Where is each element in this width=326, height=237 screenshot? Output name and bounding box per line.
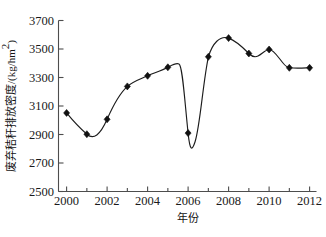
- y-tick-label: 3300: [29, 71, 54, 85]
- x-tick-label: 2002: [95, 194, 120, 208]
- x-axis-title: 年份: [177, 211, 199, 225]
- y-tick-label: 3100: [29, 99, 54, 113]
- x-tick-label: 2012: [297, 194, 322, 208]
- y-tick-label: 2900: [29, 128, 54, 142]
- y-axis-title-cjk: 废弃秸秆排放密度: [4, 84, 18, 172]
- y-axis-title-unit-close: ): [5, 40, 18, 44]
- y-tick-label: 3500: [29, 42, 54, 56]
- y-tick-label: 3700: [29, 14, 54, 28]
- x-tick-label: 2008: [216, 194, 241, 208]
- x-tick-label: 2000: [54, 194, 79, 208]
- line-chart: 2500 2700 2900 3100 3300 3500 3700: [0, 0, 326, 237]
- y-tick-label: 2500: [29, 185, 54, 199]
- x-tick-label: 2010: [257, 194, 282, 208]
- x-tick-label: 2006: [176, 194, 201, 208]
- y-axis-title-unit: /(kg/hm: [5, 49, 18, 84]
- y-tick-label: 2700: [29, 156, 54, 170]
- x-tick-label: 2004: [135, 194, 161, 208]
- chart-container: 2500 2700 2900 3100 3300 3500 3700: [0, 0, 326, 237]
